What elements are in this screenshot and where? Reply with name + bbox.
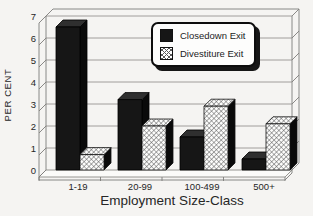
y-tick-label-6: 6 [31,33,36,44]
divestiture-bar-100-499 [204,99,235,170]
y-tick-label-2: 2 [31,121,36,132]
bar-group-500+ [242,117,297,170]
closedown-bar-front-face [180,137,204,170]
y-tick-label-5: 5 [31,55,36,66]
legend-label-divestiture: Divestiture Exit [180,49,243,59]
y-tick-label-4: 4 [31,77,36,88]
divestiture-bar-front-face [266,124,290,170]
x-category-label-1-19: 1-19 [68,181,87,192]
y-tick-label-3: 3 [31,99,36,110]
divestiture-bar-1-19 [80,148,111,170]
legend-item-closedown: Closedown Exit [160,29,245,42]
x-category-label-500+: 500+ [253,181,275,192]
gridline-nub-3 [292,97,299,104]
y-tick-2 [39,126,46,133]
legend-item-divestiture: Divestiture Exit [160,47,245,60]
y-tick-1 [39,148,46,155]
frame-top-right-corner [292,9,299,16]
closedown-bar-front-face [118,100,142,170]
legend: Closedown Exit Divestiture Exit [151,22,256,67]
legend-label-closedown: Closedown Exit [180,31,245,41]
y-tick-7 [39,16,46,23]
x-category-label-100-499: 100-499 [185,181,220,192]
y-tick-3 [39,104,46,111]
closedown-bar-front-face [242,159,266,170]
y-tick-4 [39,82,46,89]
y-tick-5 [39,60,46,67]
divestiture-bar-front-face [204,106,228,170]
y-tick-6 [39,38,46,45]
chart-figure: 1-1920-99100-499500+01234567 PER CENT Em… [0,0,313,216]
divestiture-bar-side-face [228,99,235,170]
closedown-bar-1-19 [56,20,87,170]
gridline-nub-6 [292,31,299,38]
y-tick-label-0: 0 [31,165,36,176]
closedown-bar-side-face [80,20,87,170]
divestiture-bar-front-face [80,155,104,170]
x-category-label-20-99: 20-99 [128,181,152,192]
y-tick-label-7: 7 [31,11,36,22]
y-tick-label-1: 1 [31,143,36,154]
y-axis-title: PER CENT [2,69,13,122]
divestiture-bar-20-99 [142,119,173,170]
closedown-bar-front-face [56,27,80,170]
gridline-nub-4 [292,75,299,82]
divestiture-bar-500+ [266,117,297,170]
divestiture-bar-side-face [290,117,297,170]
x-axis-title: Employment Size-Class [100,193,244,208]
bar-group-100-499 [180,99,235,170]
closedown-swatch-icon [160,29,173,42]
floor-top-face [39,170,292,177]
divestiture-bar-front-face [142,126,166,170]
frame-top-left-corner [46,9,53,16]
gridline-nub-5 [292,53,299,60]
divestiture-swatch-icon [160,47,173,60]
divestiture-bar-side-face [166,119,173,170]
bar-group-1-19 [56,20,111,170]
